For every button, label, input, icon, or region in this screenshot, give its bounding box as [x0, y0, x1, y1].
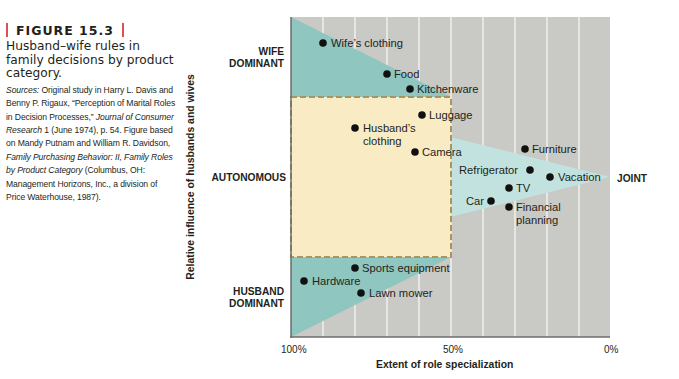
point-wifes-clothing: [319, 39, 327, 47]
label-tv: TV: [516, 182, 530, 195]
point-food: [383, 70, 391, 78]
label-car: Car: [466, 195, 484, 208]
point-refrigerator: [526, 166, 534, 174]
label-vacation: Vacation: [558, 171, 601, 184]
label-financial-planning-line1: Financial: [516, 201, 561, 214]
x-axis-title: Extent of role specialization: [376, 359, 513, 370]
label-wifes-clothing: Wife’s clothing: [331, 37, 403, 50]
category-husband-line2: DOMINANT: [216, 298, 284, 310]
role-specialization-chart: Wife’s clothing Food Kitchenware Luggage…: [0, 0, 679, 379]
label-furniture: Furniture: [532, 143, 577, 156]
point-tv: [505, 184, 513, 192]
point-car: [487, 197, 495, 205]
label-lawn-mower: Lawn mower: [369, 287, 432, 300]
label-kitchenware: Kitchenware: [417, 83, 479, 96]
chart-graphics: [0, 0, 679, 379]
label-husbands-clothing-line2: clothing: [363, 135, 402, 148]
point-hardware: [300, 277, 308, 285]
x-tick-0: 0%: [604, 344, 618, 355]
category-wife-line1: WIFE: [218, 46, 284, 58]
label-financial-planning-line2: planning: [516, 214, 558, 227]
y-axis-title: Relative influence of husbands and wives: [185, 74, 196, 280]
point-vacation: [546, 173, 554, 181]
category-husband-line1: HUSBAND: [216, 286, 284, 298]
category-joint: JOINT: [617, 173, 647, 185]
label-food: Food: [394, 68, 420, 81]
point-lawn-mower: [357, 289, 365, 297]
x-tick-50: 50%: [443, 344, 463, 355]
point-husbands-clothing: [351, 124, 359, 132]
point-luggage: [418, 111, 426, 119]
point-furniture: [521, 145, 529, 153]
point-sports-equipment: [351, 264, 359, 272]
label-hardware: Hardware: [312, 275, 361, 288]
x-tick-100: 100%: [281, 344, 307, 355]
point-kitchenware: [406, 85, 414, 93]
category-wife-line2: DOMINANT: [218, 58, 284, 70]
point-camera: [411, 148, 419, 156]
autonomous-region: [291, 97, 451, 257]
category-autonomous: AUTONOMOUS: [196, 172, 286, 184]
label-husbands-clothing-line1: Husband’s: [363, 122, 416, 135]
category-wife-dominant: WIFE DOMINANT: [218, 46, 284, 70]
label-camera: Camera: [422, 146, 462, 159]
label-luggage: Luggage: [429, 109, 473, 122]
label-sports-equipment: Sports equipment: [362, 262, 450, 275]
label-refrigerator: Refrigerator: [459, 164, 518, 177]
category-husband-dominant: HUSBAND DOMINANT: [216, 286, 284, 310]
point-financial-planning: [505, 203, 513, 211]
